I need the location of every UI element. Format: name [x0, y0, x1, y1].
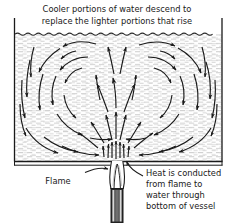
flame: [110, 161, 125, 190]
diagram-canvas: Cooler portions of water descend to repl…: [0, 0, 234, 223]
heat-note: Heat is conducted from flame to water th…: [146, 168, 221, 211]
convection-diagram: Cooler portions of water descend to repl…: [0, 0, 234, 223]
water-body: [15, 34, 222, 161]
heat-note-line-4: bottom of vessel: [146, 201, 215, 211]
heat-note-line-3: water through: [146, 190, 205, 200]
heat-note-line-2: from flame to: [146, 179, 202, 189]
flame-label: Flame: [45, 176, 70, 186]
flame-leader: [85, 168, 108, 172]
title-line-1: Cooler portions of water descend to: [43, 4, 192, 14]
heat-note-leader: [127, 162, 144, 177]
caption-title: Cooler portions of water descend to repl…: [42, 4, 192, 26]
title-line-2: replace the lighter portions that rise: [42, 16, 192, 26]
heat-note-line-1: Heat is conducted: [146, 168, 221, 178]
burner-tube: [111, 189, 123, 224]
